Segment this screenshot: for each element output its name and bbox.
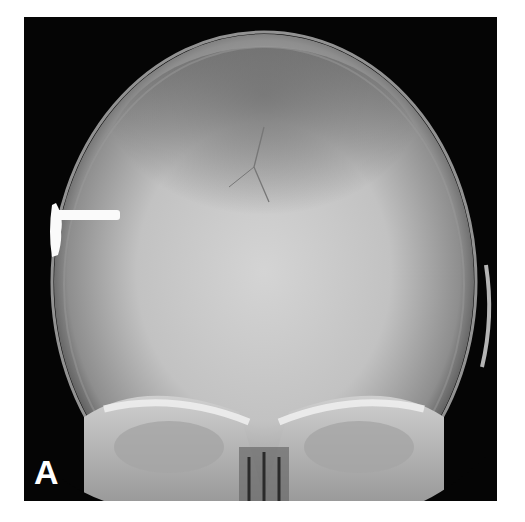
skull-xray-graphic xyxy=(24,17,497,501)
panel-label: A xyxy=(34,455,59,489)
xray-image: A xyxy=(24,17,497,501)
